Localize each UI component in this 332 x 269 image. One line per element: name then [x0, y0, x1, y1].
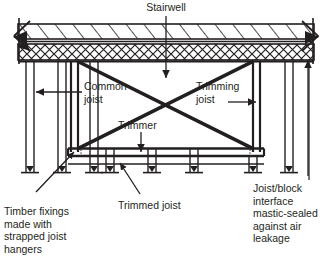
joist-group-right [280, 62, 309, 180]
label-trimming-joist: Trimming joist [196, 80, 258, 105]
label-timber-fixings: Timber fixings made with strapped joist … [4, 205, 100, 255]
leader-trimmed-joist [120, 163, 140, 194]
trimming-joist-left [71, 62, 78, 152]
trimming-joist-right [253, 62, 260, 152]
joist-group-trimmed [101, 149, 262, 173]
label-trimmer: Trimmer [118, 119, 180, 132]
label-trimmed-joist: Trimmed joist [118, 199, 214, 212]
diagram-canvas: Stairwell Common joist Trimming joist Tr… [0, 0, 332, 269]
label-common-joist: Common joist [84, 80, 148, 105]
label-stairwell: Stairwell [124, 1, 208, 14]
label-joist-block-interface: Joist/block interface mastic-sealed agai… [253, 182, 331, 245]
